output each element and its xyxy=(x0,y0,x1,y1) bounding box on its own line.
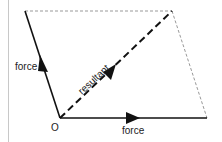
right-dotted-edge xyxy=(172,11,207,118)
parallelogram-of-forces-diagram: force force O resultant xyxy=(0,0,222,142)
force-bottom-arrowhead-icon xyxy=(126,112,140,124)
force-left-label: force xyxy=(15,61,38,72)
force-bottom-label: force xyxy=(122,125,145,136)
origin-label: O xyxy=(51,122,59,133)
resultant-vector xyxy=(60,11,172,118)
resultant-label: resultant xyxy=(76,62,112,96)
